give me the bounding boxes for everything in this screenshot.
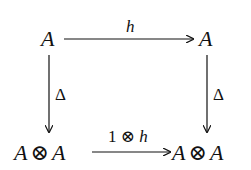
node-bottom-right-a1: A <box>172 140 185 165</box>
label-right-arrow: Δ <box>213 86 224 103</box>
node-bottom-right: A⊗A <box>172 142 223 164</box>
node-bottom-right-a2: A <box>210 140 223 165</box>
node-top-left: A <box>41 28 54 50</box>
tensor-symbol: ⊗ <box>188 140 206 165</box>
node-bottom-left-a2: A <box>52 140 65 165</box>
label-left-arrow: Δ <box>55 86 66 103</box>
tensor-symbol: ⊗ <box>30 140 48 165</box>
node-bottom-left-a1: A <box>14 140 27 165</box>
node-bottom-left: A⊗A <box>14 142 65 164</box>
label-top-arrow: h <box>126 18 135 35</box>
label-bottom-arrow: 1 ⊗ h <box>108 128 148 145</box>
label-h: h <box>139 127 148 146</box>
label-tensor: ⊗ <box>121 127 135 146</box>
label-one: 1 <box>108 127 117 146</box>
node-top-right: A <box>199 28 212 50</box>
